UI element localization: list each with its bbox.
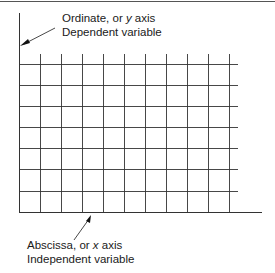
y-axis-label: Ordinate, or y axis Dependent variable: [62, 11, 162, 39]
x-axis-label-line2: Independent variable: [27, 252, 134, 266]
x-axis-label-suffix: axis: [99, 239, 123, 251]
y-axis-label-suffix: axis: [132, 12, 156, 24]
x-axis-label: Abscissa, or x axis Independent variable: [27, 238, 134, 266]
axes-grid: [0, 0, 275, 273]
y-axis-label-line2: Dependent variable: [62, 25, 162, 39]
x-axis-pointer-arrow: [74, 215, 91, 240]
y-axis-pointer-arrow: [20, 28, 55, 46]
vertical-grid-lines: [41, 54, 230, 212]
x-axis-label-prefix: Abscissa, or: [27, 239, 93, 251]
y-axis-label-prefix: Ordinate, or: [62, 12, 126, 24]
horizontal-grid-lines: [19, 65, 238, 192]
y-axis-label-line1: Ordinate, or y axis: [62, 11, 162, 25]
x-axis-label-line1: Abscissa, or x axis: [27, 238, 134, 252]
